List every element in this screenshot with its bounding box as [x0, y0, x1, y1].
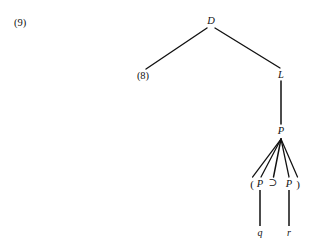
edge-P-to-close-paren: [281, 139, 298, 177]
terminal-q: q: [258, 228, 263, 238]
leaf-implication-operator: ⊃: [269, 178, 278, 189]
leaf-close-paren: ): [296, 179, 300, 190]
leaf-node-P-right: P: [286, 179, 293, 190]
edge-P-to-right-P: [281, 139, 289, 177]
edge-P-to-open-paren: [253, 139, 282, 177]
edge-P-to-operator: [274, 139, 282, 177]
figure-canvas: (9) D (8) L P ( P ⊃ P ) q r: [0, 0, 323, 250]
leaf-node-P-left: P: [257, 179, 264, 190]
edge-group-terminals: [260, 190, 289, 226]
edge-group-fan: [253, 139, 298, 177]
leaf-open-paren: (: [250, 179, 254, 190]
node-subtree-reference-8: (8): [137, 71, 149, 82]
example-number-label: (9): [14, 18, 26, 29]
edge-P-to-left-P: [261, 139, 281, 177]
edge-root-to-L: [215, 28, 280, 68]
node-L: L: [278, 70, 284, 81]
edge-group-root: [146, 28, 281, 124]
edge-root-to-subtree-8: [146, 28, 207, 69]
node-D: D: [207, 16, 215, 27]
node-P-upper: P: [278, 126, 285, 137]
terminal-r: r: [287, 228, 291, 238]
tree-edges-svg: [0, 0, 323, 250]
